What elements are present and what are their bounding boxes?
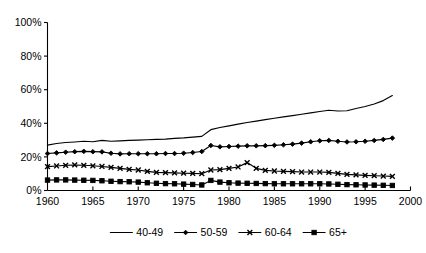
- series-marker-50-59: [299, 141, 304, 146]
- series-marker-65+: [109, 179, 113, 183]
- legend-item-60-64: 60-64: [239, 226, 292, 238]
- series-marker-50-59: [109, 151, 114, 156]
- series-marker-65+: [154, 181, 158, 185]
- y-tick-label: 20%: [20, 151, 41, 163]
- series-marker-50-59: [91, 149, 96, 154]
- chart-container: 0%20%40%60%80%100% 196019651970197519801…: [0, 0, 426, 253]
- line-chart: 0%20%40%60%80%100% 196019651970197519801…: [0, 0, 426, 253]
- series-marker-50-59: [308, 139, 313, 144]
- series-marker-65+: [245, 181, 249, 185]
- x-tick-label: 1990: [308, 195, 332, 207]
- x-tick-label: 1995: [353, 195, 377, 207]
- series-marker-50-59: [63, 150, 68, 155]
- series-marker-65+: [200, 183, 204, 187]
- legend-item-40-49: 40-49: [110, 226, 163, 238]
- series-marker-50-59: [154, 151, 159, 156]
- series-50-59: [45, 136, 394, 156]
- series-marker-65+: [372, 183, 376, 187]
- chart-series-group: [45, 96, 395, 188]
- series-marker-50-59: [163, 151, 168, 156]
- legend-label-60-64: 60-64: [265, 226, 292, 238]
- series-marker-65+: [327, 182, 331, 186]
- series-marker-50-59: [317, 138, 322, 143]
- chart-legend: 40-4950-5960-6465+: [110, 226, 347, 238]
- series-marker-50-59: [354, 139, 359, 144]
- series-marker-50-59: [245, 144, 250, 149]
- series-marker-65+: [118, 179, 122, 183]
- x-tick-label: 1980: [217, 195, 241, 207]
- series-marker-50-59: [54, 151, 59, 156]
- y-tick-label: 80%: [20, 50, 41, 62]
- series-marker-65+: [127, 180, 131, 184]
- series-line-40-49: [48, 96, 393, 146]
- y-tick-label: 100%: [15, 16, 42, 28]
- series-marker-50-59: [327, 138, 332, 143]
- series-marker-50-59: [190, 150, 195, 155]
- series-marker-50-59: [336, 139, 341, 144]
- series-marker-50-59: [272, 143, 277, 148]
- series-marker-65+: [318, 182, 322, 186]
- series-40-49: [48, 96, 393, 146]
- series-marker-65+: [263, 181, 267, 185]
- x-tick-label: 1970: [127, 195, 151, 207]
- series-marker-65+: [54, 178, 58, 182]
- series-marker-50-59: [118, 152, 123, 157]
- legend-marker-65+: [312, 230, 316, 234]
- series-marker-65+: [254, 181, 258, 185]
- series-marker-50-59: [172, 151, 177, 156]
- series-marker-65+: [272, 182, 276, 186]
- series-marker-65+: [91, 178, 95, 182]
- series-65+: [45, 178, 394, 188]
- series-marker-50-59: [263, 143, 268, 148]
- series-marker-50-59: [218, 145, 223, 150]
- series-marker-65+: [290, 182, 294, 186]
- x-tick-label: 1960: [36, 195, 60, 207]
- series-marker-65+: [345, 182, 349, 186]
- series-marker-50-59: [145, 151, 150, 156]
- series-marker-65+: [181, 182, 185, 186]
- series-marker-50-59: [181, 151, 186, 156]
- series-marker-50-59: [45, 151, 50, 156]
- series-marker-50-59: [127, 151, 132, 156]
- series-marker-65+: [73, 178, 77, 182]
- series-marker-50-59: [100, 150, 105, 155]
- x-tick-label: 1985: [263, 195, 287, 207]
- series-marker-65+: [82, 178, 86, 182]
- series-marker-50-59: [381, 137, 386, 142]
- series-marker-50-59: [136, 151, 141, 156]
- chart-axes: [44, 23, 411, 191]
- series-marker-65+: [100, 179, 104, 183]
- x-axis-tick-labels: 196019651970197519801985199019952000: [36, 195, 423, 207]
- series-marker-50-59: [290, 142, 295, 147]
- series-marker-50-59: [372, 138, 377, 143]
- legend-marker-50-59: [183, 230, 188, 235]
- series-marker-65+: [163, 181, 167, 185]
- series-marker-65+: [236, 181, 240, 185]
- x-tick-label: 1975: [172, 195, 196, 207]
- series-marker-65+: [209, 178, 213, 182]
- series-marker-50-59: [227, 144, 232, 149]
- series-marker-50-59: [390, 136, 395, 141]
- legend-label-50-59: 50-59: [201, 226, 228, 238]
- x-tick-label: 1965: [81, 195, 105, 207]
- series-marker-65+: [145, 181, 149, 185]
- series-60-64: [45, 160, 395, 179]
- legend-label-65+: 65+: [329, 226, 347, 238]
- series-marker-50-59: [82, 149, 87, 154]
- legend-item-65+: 65+: [303, 226, 347, 238]
- y-axis-tick-labels: 0%20%40%60%80%100%: [15, 16, 42, 196]
- series-marker-65+: [363, 183, 367, 187]
- series-marker-65+: [299, 182, 303, 186]
- series-marker-65+: [136, 180, 140, 184]
- series-marker-65+: [172, 182, 176, 186]
- legend-label-40-49: 40-49: [136, 226, 163, 238]
- series-marker-50-59: [363, 139, 368, 144]
- series-marker-50-59: [72, 149, 77, 154]
- series-marker-65+: [218, 180, 222, 184]
- series-marker-65+: [191, 182, 195, 186]
- series-marker-65+: [63, 178, 67, 182]
- y-tick-label: 40%: [20, 117, 41, 129]
- legend-item-50-59: 50-59: [175, 226, 228, 238]
- series-marker-65+: [281, 182, 285, 186]
- series-marker-50-59: [345, 140, 350, 145]
